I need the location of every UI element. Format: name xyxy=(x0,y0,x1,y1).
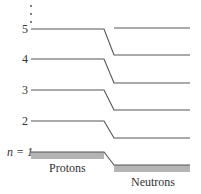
level-label-3: 3 xyxy=(22,83,28,97)
level-label-1: n = 1 xyxy=(7,145,33,159)
level-line-3 xyxy=(31,90,190,110)
level-label-4: 4 xyxy=(22,52,28,66)
proton-neutron-energy-level-diagram: 5 4 3 2 n = 1 Protons Neutrons xyxy=(0,0,201,194)
level-line-5-proton xyxy=(31,29,190,55)
continuation-dots xyxy=(30,5,32,23)
neutron-ground-band xyxy=(114,165,190,172)
level-line-4 xyxy=(31,59,190,83)
proton-ground-band xyxy=(31,152,104,159)
protons-label: Protons xyxy=(49,161,86,175)
energy-level-lines xyxy=(31,28,190,165)
neutrons-label: Neutrons xyxy=(131,175,175,189)
level-line-2 xyxy=(31,121,190,138)
level-label-5: 5 xyxy=(22,22,28,36)
level-label-2: 2 xyxy=(22,114,28,128)
